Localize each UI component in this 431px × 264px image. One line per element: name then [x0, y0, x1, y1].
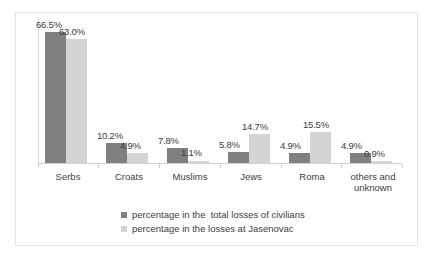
- bar-dark[interactable]: [289, 153, 310, 163]
- bar-light[interactable]: [249, 134, 270, 163]
- bar-value-label: 15.5%: [303, 119, 329, 130]
- legend-label: percentage in the total losses of civili…: [132, 209, 305, 220]
- category-label-line1: Roma: [299, 171, 324, 182]
- bar-value-label: 7.8%: [158, 135, 179, 146]
- category-label-line1: Jews: [240, 171, 262, 182]
- bars: 10.2% 4.9%: [100, 17, 158, 163]
- category-label-line1: others and: [351, 171, 396, 182]
- axis-tick: [38, 164, 39, 168]
- bar-light[interactable]: [371, 161, 392, 163]
- axis-tick: [98, 164, 99, 168]
- bars: 66.5% 63.0%: [39, 17, 97, 163]
- bars: 4.9% 0.9%: [344, 17, 402, 163]
- bar-value-label: 4.9%: [120, 140, 141, 151]
- bar-group-others-and-unknown: 4.9% 0.9%: [344, 17, 402, 163]
- legend-label: percentage in the losses at Jasenovac: [132, 223, 294, 234]
- legend-swatch-icon: [121, 212, 127, 218]
- bar-light[interactable]: [310, 132, 331, 163]
- category-label-muslims: Muslims: [155, 171, 225, 182]
- bar-group-croats: 10.2% 4.9%: [100, 17, 158, 163]
- axis-tick: [159, 164, 160, 168]
- bar-light[interactable]: [127, 153, 148, 163]
- category-label-line2: unknown: [354, 182, 392, 193]
- bars: 5.8% 14.7%: [222, 17, 280, 163]
- bar-group-jews: 5.8% 14.7%: [222, 17, 280, 163]
- bar-value-label: 5.8%: [219, 139, 240, 150]
- bar-value-label: 14.7%: [242, 121, 268, 132]
- category-label-line1: Serbs: [56, 171, 81, 182]
- legend-swatch-icon: [121, 226, 127, 232]
- bar-group-serbs: 66.5% 63.0%: [39, 17, 97, 163]
- axis-tick: [341, 164, 342, 168]
- axis-tick: [281, 164, 282, 168]
- bars: 7.8% 1.1%: [161, 17, 219, 163]
- axis-tick: [220, 164, 221, 168]
- category-label-line1: Muslims: [173, 171, 208, 182]
- bar-light[interactable]: [188, 161, 209, 163]
- bars: 4.9% 15.5%: [283, 17, 341, 163]
- chart-legend: percentage in the total losses of civili…: [121, 209, 305, 237]
- category-label-jews: Jews: [216, 171, 286, 182]
- category-label-roma: Roma: [277, 171, 347, 182]
- bar-value-label: 4.9%: [341, 140, 362, 151]
- chart-frame: 66.5% 63.0% Serbs 10.2% 4.9% Croats 7.8%: [15, 12, 418, 246]
- category-label-others-and-unknown: others and unknown: [338, 171, 408, 193]
- category-label-croats: Croats: [94, 171, 164, 182]
- bar-group-roma: 4.9% 15.5%: [283, 17, 341, 163]
- bar-group-muslims: 7.8% 1.1%: [161, 17, 219, 163]
- category-label-line1: Croats: [115, 171, 143, 182]
- legend-item-total-losses[interactable]: percentage in the total losses of civili…: [121, 209, 305, 220]
- bar-value-label: 1.1%: [181, 147, 202, 158]
- axis-tick: [402, 164, 403, 168]
- bar-light[interactable]: [66, 39, 87, 163]
- bar-value-label: 0.9%: [364, 148, 385, 159]
- bar-value-label: 4.9%: [280, 140, 301, 151]
- category-label-serbs: Serbs: [33, 171, 103, 182]
- bar-dark[interactable]: [45, 32, 66, 163]
- bar-dark[interactable]: [228, 152, 249, 163]
- legend-item-jasenovac[interactable]: percentage in the losses at Jasenovac: [121, 223, 305, 234]
- bar-value-label: 63.0%: [59, 26, 85, 37]
